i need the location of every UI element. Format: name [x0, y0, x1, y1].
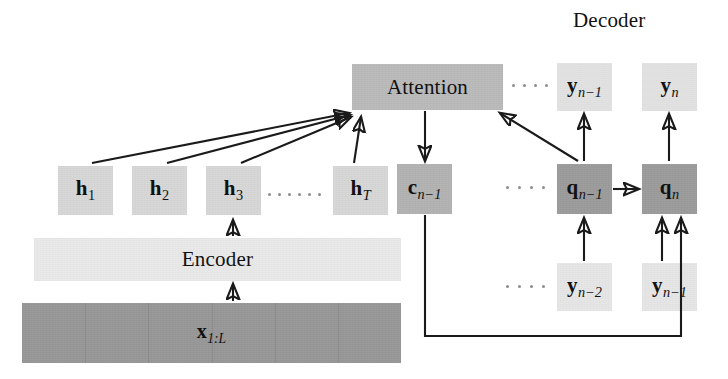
decoder-state-q-n-1-base: q	[566, 175, 578, 199]
encoder-label: Encoder	[182, 249, 253, 270]
output-token-y-n-1-sub: n−1	[578, 84, 602, 100]
hidden-state-hT-base: h	[350, 176, 362, 200]
decoder-input-y-n-1-base: y	[652, 273, 663, 297]
decoder-input-y-n-2-sub: n−2	[578, 284, 602, 300]
hidden-state-h3-sub: 3	[236, 187, 243, 203]
output-token-y-n-sub: n	[671, 84, 678, 100]
decoder-state-q-n-1-sub: n−1	[579, 186, 603, 202]
arrow-hT-to-attention	[354, 117, 361, 163]
connector-context-feedback-to-qn	[425, 215, 681, 336]
attention-label: Attention	[387, 77, 468, 98]
hidden-state-h3-base: h	[224, 176, 236, 200]
decoder-input-y-n-2-base: y	[567, 273, 578, 297]
source-sequence-base: x	[197, 320, 207, 342]
arrow-h1-to-attention	[92, 113, 349, 163]
hidden-state-h2-base: h	[150, 176, 162, 200]
decoder-input-y-n-1-sub: n−1	[663, 284, 687, 300]
hidden-state-h2-sub: 2	[162, 187, 169, 203]
hidden-state-h1-base: h	[76, 176, 88, 200]
decoder-state-q-n-sub: n	[672, 186, 679, 202]
source-sequence-sub: 1:L	[207, 331, 226, 346]
context-vector-base: c	[408, 175, 417, 199]
decoder-state-q-n-base: q	[660, 175, 672, 199]
output-token-y-n-1-base: y	[567, 73, 578, 97]
figure-canvas: Decoder	[0, 0, 728, 379]
output-token-y-n-base: y	[660, 73, 671, 97]
arrow-qn1-to-attention	[500, 113, 578, 161]
hidden-state-hT-sub: T	[363, 187, 371, 203]
hidden-state-h1-sub: 1	[88, 187, 95, 203]
context-vector-sub: n−1	[417, 186, 441, 202]
